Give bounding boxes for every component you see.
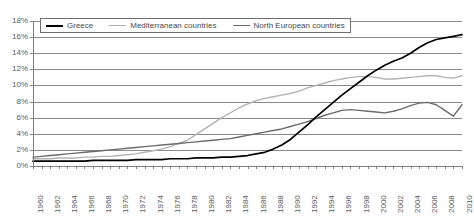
x-axis-tick-mark (33, 166, 34, 169)
series-layer (33, 21, 462, 166)
y-axis-tick-label: 8% (16, 98, 28, 106)
x-axis-tick-label: 1982 (225, 195, 233, 213)
y-axis-tick-mark (30, 53, 33, 54)
y-axis-tick-mark (30, 85, 33, 86)
legend-line-icon-mediterranean (109, 25, 126, 26)
x-axis-tick-mark (299, 166, 300, 169)
y-axis-tick-mark (30, 150, 33, 151)
x-axis-tick-mark (110, 166, 111, 169)
y-axis-tick-label: 14% (12, 49, 28, 57)
x-axis-tick-mark (256, 166, 257, 169)
y-axis-tick-label: 4% (16, 130, 28, 138)
x-axis-tick-mark (282, 166, 283, 169)
y-axis-ticks: 18%16%14%12%10%8%6%4%2%0% (0, 0, 33, 166)
x-axis-tick-label: 1996 (345, 195, 353, 213)
x-axis-tick-mark (76, 166, 77, 169)
x-axis-tick-mark (436, 166, 437, 169)
x-axis-tick-mark (445, 166, 446, 169)
x-axis-tick-label: 2008 (448, 195, 456, 213)
x-axis-tick-label: 1972 (139, 195, 147, 213)
x-axis-tick-mark (333, 166, 334, 169)
legend-item-greece: Greece (46, 21, 93, 30)
y-axis-tick-label: 18% (12, 17, 28, 25)
y-axis-tick-mark (30, 118, 33, 119)
x-axis-tick-label: 1978 (191, 195, 199, 213)
x-axis-tick-mark (368, 166, 369, 169)
x-axis-tick-label: 1960 (37, 195, 45, 213)
y-axis-tick-label: 12% (12, 65, 28, 73)
x-axis-tick-label: 1970 (122, 195, 130, 213)
x-axis-tick-mark (213, 166, 214, 169)
x-axis-tick-mark (93, 166, 94, 169)
plot-area (33, 21, 462, 166)
x-axis-tick-mark (273, 166, 274, 169)
x-axis-tick-mark (102, 166, 103, 169)
y-axis-tick-mark (30, 102, 33, 103)
y-axis-tick-mark (30, 37, 33, 38)
x-axis-tick-label: 1986 (260, 195, 268, 213)
legend-item-north-european: North European countries (233, 21, 345, 30)
x-axis-tick-label: 2002 (397, 195, 405, 213)
x-axis-tick-label: 1984 (242, 195, 250, 213)
x-axis-tick-label: 1988 (277, 195, 285, 213)
y-axis-line (33, 21, 34, 167)
x-axis-tick-mark (222, 166, 223, 169)
x-axis-tick-mark (393, 166, 394, 169)
x-axis-tick-mark (187, 166, 188, 169)
x-axis-tick-label: 1998 (363, 195, 371, 213)
x-axis-tick-mark (342, 166, 343, 169)
legend: Greece Mediterranean countries North Eur… (40, 18, 351, 33)
y-axis-tick-label: 0% (16, 162, 28, 170)
x-axis-tick-label: 1964 (71, 195, 79, 213)
x-axis-tick-mark (248, 166, 249, 169)
y-axis-tick-label: 10% (12, 81, 28, 89)
x-axis-tick-mark (419, 166, 420, 169)
x-axis-tick-label: 1976 (174, 195, 182, 213)
x-axis-tick-label: 2000 (380, 195, 388, 213)
x-axis-tick-label: 1962 (54, 195, 62, 213)
x-axis-tick-mark (59, 166, 60, 169)
x-axis-tick-mark (325, 166, 326, 169)
x-axis-tick-mark (42, 166, 43, 169)
x-axis-tick-label: 1968 (105, 195, 113, 213)
y-axis-tick-mark (30, 134, 33, 135)
x-axis-tick-mark (402, 166, 403, 169)
y-axis-tick-mark (30, 21, 33, 22)
series-line-mediterranean-countries (33, 76, 462, 159)
x-axis-tick-label: 2004 (414, 195, 422, 213)
x-axis-tick-mark (127, 166, 128, 169)
x-axis-tick-label: 1990 (294, 195, 302, 213)
y-axis-tick-mark (30, 69, 33, 70)
y-axis-tick-label: 16% (12, 33, 28, 41)
x-axis-tick-mark (359, 166, 360, 169)
x-axis-tick-mark (205, 166, 206, 169)
x-axis-tick-mark (350, 166, 351, 169)
x-axis-tick-mark (230, 166, 231, 169)
x-axis-tick-label: 2010 (466, 195, 474, 213)
x-axis-tick-mark (308, 166, 309, 169)
y-axis-tick-label: 6% (16, 114, 28, 122)
x-axis-tick-mark (136, 166, 137, 169)
legend-label-mediterranean: Mediterranean countries (130, 21, 216, 30)
x-axis-tick-mark (385, 166, 386, 169)
x-axis-tick-mark (411, 166, 412, 169)
legend-label-north-european: North European countries (254, 21, 345, 30)
x-axis-tick-mark (265, 166, 266, 169)
x-axis-tick-mark (145, 166, 146, 169)
x-axis-tick-mark (453, 166, 454, 169)
x-axis-tick-mark (170, 166, 171, 169)
x-axis-tick-label: 1980 (208, 195, 216, 213)
x-axis-tick-mark (84, 166, 85, 169)
x-axis-tick-label: 1974 (157, 195, 165, 213)
x-axis-tick-mark (239, 166, 240, 169)
x-axis-tick-mark (50, 166, 51, 169)
x-axis-tick-mark (196, 166, 197, 169)
x-axis-tick-mark (376, 166, 377, 169)
x-axis-tick-mark (290, 166, 291, 169)
x-axis-tick-label: 1994 (328, 195, 336, 213)
series-line-north-european-countries (33, 102, 462, 157)
x-axis-tick-label: 1992 (311, 195, 319, 213)
legend-line-icon-greece (46, 25, 63, 27)
y-axis-tick-label: 2% (16, 146, 28, 154)
